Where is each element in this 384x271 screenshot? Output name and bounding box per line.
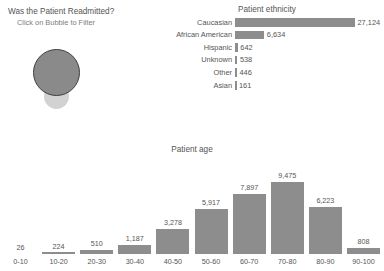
age-bar[interactable] — [309, 207, 342, 254]
age-value-label: 808 — [357, 238, 369, 245]
ethnicity-category-label: Caucasian — [150, 19, 235, 26]
patient-age-chart: Patient age 262245101,1873,2785,9177,897… — [0, 140, 384, 271]
age-tick-label: 10-20 — [42, 257, 75, 266]
readmitted-title: Was the Patient Readmitted? — [8, 7, 114, 16]
age-bar[interactable] — [118, 245, 151, 254]
age-value-label: 9,475 — [278, 172, 296, 179]
age-column[interactable]: 3,278 — [156, 162, 189, 254]
age-column[interactable]: 224 — [42, 162, 75, 254]
ethnicity-bar-track: 446 — [235, 66, 384, 79]
ethnicity-row[interactable]: Caucasian27,124 — [150, 16, 384, 29]
age-bar[interactable] — [80, 250, 113, 254]
ethnicity-category-label: African American — [150, 31, 235, 38]
age-tick-label: 20-30 — [80, 257, 113, 266]
ethnicity-category-label: Asian — [150, 82, 235, 89]
ethnicity-row[interactable]: Hispanic642 — [150, 41, 384, 54]
age-column[interactable]: 9,475 — [271, 162, 304, 254]
readmitted-bubble-panel: Was the Patient Readmitted? Click on Bub… — [0, 0, 150, 135]
age-bar[interactable] — [347, 248, 380, 254]
ethnicity-value-label: 538 — [237, 56, 252, 63]
readmitted-bubble-large[interactable] — [33, 49, 80, 96]
ethnicity-category-label: Hispanic — [150, 44, 235, 51]
age-tick-label: 0-10 — [4, 257, 37, 266]
age-bar[interactable] — [42, 252, 75, 254]
age-value-label: 26 — [17, 244, 25, 251]
age-value-label: 3,278 — [164, 219, 182, 226]
age-axis-labels: 0-1010-2020-3030-4040-5050-6060-7070-808… — [4, 257, 380, 266]
ethnicity-bar[interactable] — [235, 18, 355, 27]
ethnicity-value-label: 642 — [238, 44, 253, 51]
ethnicity-bar-list: Caucasian27,124African American6,634Hisp… — [150, 16, 384, 92]
ethnicity-row[interactable]: Other446 — [150, 66, 384, 79]
age-bar[interactable] — [195, 209, 228, 254]
age-value-label: 1,187 — [126, 235, 144, 242]
age-tick-label: 50-60 — [195, 257, 228, 266]
age-tick-label: 80-90 — [309, 257, 342, 266]
ethnicity-bar-track: 161 — [235, 79, 384, 92]
age-column[interactable]: 6,223 — [309, 162, 342, 254]
ethnicity-category-label: Other — [150, 69, 235, 76]
ethnicity-bar-track: 27,124 — [235, 16, 384, 29]
ethnicity-bar-track: 642 — [235, 41, 384, 54]
age-bar[interactable] — [156, 229, 189, 254]
age-bar-plot: 262245101,1873,2785,9177,8979,4756,22380… — [4, 162, 380, 254]
age-tick-label: 90-100 — [347, 257, 380, 266]
age-tick-label: 60-70 — [233, 257, 266, 266]
age-column[interactable]: 26 — [4, 162, 37, 254]
ethnicity-row[interactable]: Unknown538 — [150, 54, 384, 67]
ethnicity-bar-track: 538 — [235, 54, 384, 67]
age-value-label: 5,917 — [202, 199, 220, 206]
age-chart-title: Patient age — [0, 145, 384, 154]
ethnicity-value-label: 27,124 — [355, 19, 380, 26]
ethnicity-bar[interactable] — [235, 31, 264, 40]
ethnicity-value-label: 161 — [237, 82, 252, 89]
age-column[interactable]: 7,897 — [233, 162, 266, 254]
ethnicity-value-label: 6,634 — [264, 31, 285, 38]
ethnicity-bar-track: 6,634 — [235, 29, 384, 42]
age-column[interactable]: 510 — [80, 162, 113, 254]
age-tick-label: 40-50 — [156, 257, 189, 266]
age-bar[interactable] — [233, 194, 266, 254]
ethnicity-category-label: Unknown — [150, 56, 235, 63]
age-column[interactable]: 1,187 — [118, 162, 151, 254]
readmitted-subtitle: Click on Bubble to Filter — [17, 18, 95, 27]
age-column[interactable]: 5,917 — [195, 162, 228, 254]
age-column[interactable]: 808 — [347, 162, 380, 254]
ethnicity-value-label: 446 — [237, 69, 252, 76]
age-bar[interactable] — [271, 182, 304, 254]
age-value-label: 7,897 — [240, 184, 258, 191]
age-tick-label: 30-40 — [118, 257, 151, 266]
age-value-label: 224 — [53, 243, 65, 250]
ethnicity-row[interactable]: African American6,634 — [150, 29, 384, 42]
age-value-label: 510 — [91, 240, 103, 247]
age-tick-label: 70-80 — [271, 257, 304, 266]
age-value-label: 6,223 — [316, 197, 334, 204]
ethnicity-row[interactable]: Asian161 — [150, 79, 384, 92]
ethnicity-chart-title: Patient ethnicity — [150, 5, 384, 14]
patient-ethnicity-chart: Patient ethnicity Caucasian27,124African… — [150, 0, 384, 112]
